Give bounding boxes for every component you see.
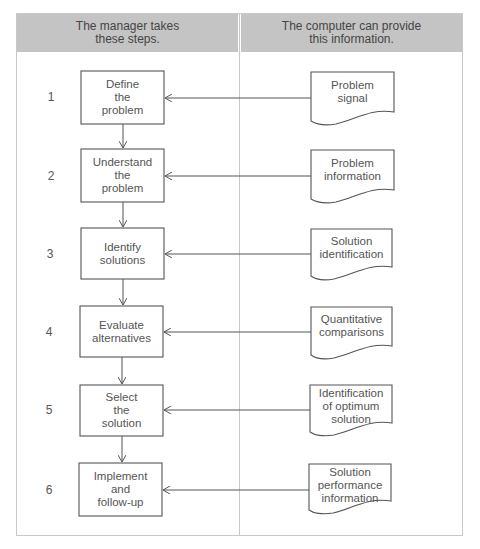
step-number-5: 5: [39, 403, 59, 417]
info-label-6: Solution performance information: [309, 465, 391, 505]
step-label-1: Define the problem: [81, 71, 164, 124]
step-label-3: Identify solutions: [81, 228, 164, 279]
step-label-4: Evaluate alternatives: [80, 306, 163, 357]
info-label-4: Quantitative comparisons: [311, 309, 392, 343]
info-label-3: Solution identification: [311, 231, 392, 265]
step-number-6: 6: [39, 483, 59, 497]
info-label-5: Identification of optimum solution: [310, 386, 392, 426]
step-number-2: 2: [41, 169, 61, 183]
step-number-3: 3: [40, 247, 60, 261]
step-label-5: Select the solution: [80, 385, 163, 436]
step-number-4: 4: [39, 325, 59, 339]
info-label-2: Problem information: [311, 152, 394, 188]
step-number-1: 1: [41, 90, 61, 104]
info-label-1: Problem signal: [311, 74, 394, 110]
flowchart-shapes: [0, 0, 480, 549]
step-label-6: Implement and follow-up: [79, 463, 162, 516]
step-label-2: Understand the problem: [81, 149, 164, 202]
